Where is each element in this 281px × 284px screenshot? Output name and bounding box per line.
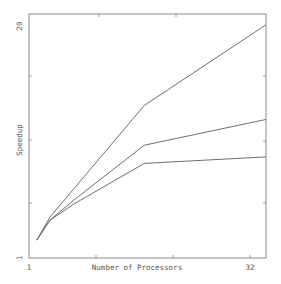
series-line-upper — [37, 25, 266, 240]
speedup-chart: 1 32 Number of Processors 1 20 Speedup — [0, 0, 281, 284]
ticks — [29, 14, 266, 258]
x-axis-title: Number of Processors — [92, 263, 182, 272]
y-max-label: 20 — [15, 21, 24, 31]
x-min-label: 1 — [27, 263, 32, 272]
series-line-middle — [37, 120, 266, 241]
plot-frame — [29, 14, 266, 258]
data-series — [37, 25, 266, 240]
x-max-label: 32 — [245, 263, 254, 272]
series-line-lower — [37, 157, 266, 240]
y-axis-title: Speedup — [15, 124, 24, 156]
y-min-label: 1 — [15, 256, 24, 261]
